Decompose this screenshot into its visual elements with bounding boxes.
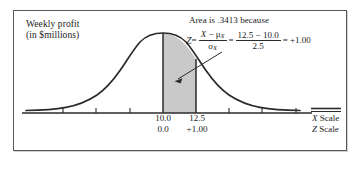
formula-numerator-symbolic: X − μX <box>199 29 227 41</box>
formula-mu-subscript: X <box>221 32 225 39</box>
z-scale-symbol: Z <box>312 124 317 134</box>
y-axis-label: Weekly profit (in $millions) <box>26 19 80 40</box>
formula-result: +1.00 <box>290 35 311 45</box>
z-score-formula: Z=X − μXσX=12.5 − 10.02.5= +1.00 <box>186 29 311 52</box>
formula-fraction-numeric: 12.5 − 10.02.5 <box>236 30 281 52</box>
formula-equals-1: = <box>192 35 197 45</box>
formula-denominator-numeric: 2.5 <box>236 41 281 51</box>
area-annotation-text: Area is .3413 because <box>189 15 269 25</box>
y-axis-label-line2: (in $millions) <box>26 30 80 41</box>
formula-numerator-numeric: 12.5 − 10.0 <box>236 30 281 41</box>
formula-sigma-subscript: X <box>213 44 217 51</box>
x-scale-text: Scale <box>320 113 340 123</box>
formula-minus-1: − <box>208 29 213 39</box>
x-scale-label: X Scale <box>312 113 339 123</box>
formula-equals-2: = <box>229 35 234 45</box>
z-scale-label: Z Scale <box>312 124 339 134</box>
formula-equals-3: = <box>283 35 288 45</box>
figure-container: Weekly profit (in $millions) Area is .34… <box>0 0 362 170</box>
x-scale-symbol: X <box>312 113 318 123</box>
z-tick-label-sigma: +1.00 <box>176 124 218 134</box>
z-scale-text: Scale <box>319 124 339 134</box>
x-tick-label-sigma: 12.5 <box>176 113 218 123</box>
formula-x-variable: X <box>201 29 207 39</box>
formula-denominator-symbolic: σX <box>199 41 227 52</box>
y-axis-label-line1: Weekly profit <box>26 19 80 30</box>
formula-fraction-symbolic: X − μXσX <box>199 29 227 52</box>
